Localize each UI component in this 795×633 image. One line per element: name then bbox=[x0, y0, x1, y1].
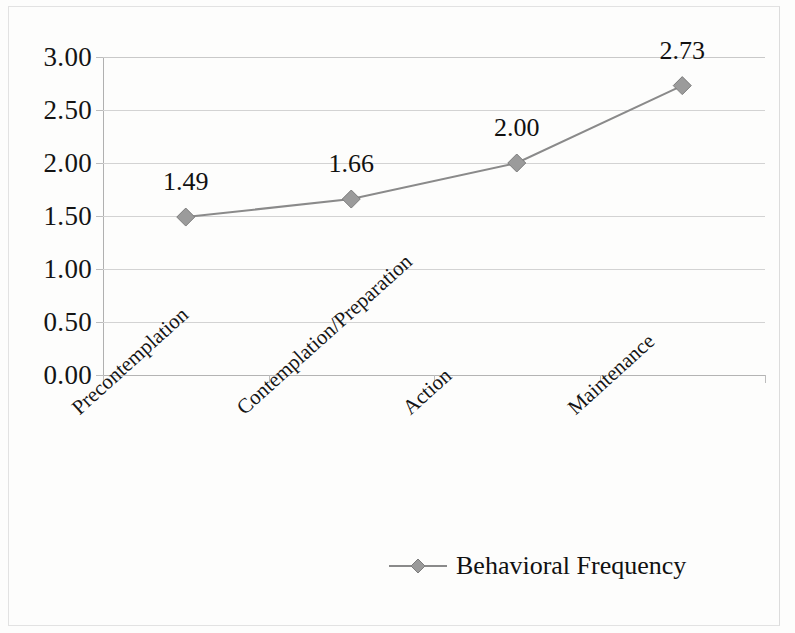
y-axis-tick-label: 2.00 bbox=[6, 150, 92, 177]
y-axis-tick-label: 1.00 bbox=[6, 256, 92, 283]
y-axis-tick-label: 1.50 bbox=[6, 203, 92, 230]
plot-area bbox=[103, 57, 765, 375]
chart-legend: Behavioral Frequency bbox=[389, 553, 686, 579]
series-line bbox=[186, 86, 683, 217]
data-point-label: 2.73 bbox=[660, 38, 706, 64]
y-axis-tick-label: 3.00 bbox=[6, 44, 92, 71]
y-axis-tick bbox=[96, 163, 103, 164]
y-axis-tick bbox=[96, 322, 103, 323]
data-point-marker bbox=[342, 190, 360, 208]
data-point-marker bbox=[177, 208, 195, 226]
y-axis-tick-label: 2.50 bbox=[6, 97, 92, 124]
y-axis-tick bbox=[96, 216, 103, 217]
y-axis-tick bbox=[96, 57, 103, 58]
data-point-marker bbox=[508, 154, 526, 172]
data-point-label: 2.00 bbox=[494, 115, 540, 141]
x-axis-tick bbox=[765, 375, 766, 383]
y-axis-tick bbox=[96, 269, 103, 270]
series-behavioral-frequency bbox=[103, 57, 765, 375]
y-axis-tick bbox=[96, 110, 103, 111]
data-point-label: 1.49 bbox=[163, 169, 209, 195]
x-axis-category-label: Precontemplation bbox=[68, 403, 82, 419]
y-axis-tick-label: 0.50 bbox=[6, 309, 92, 336]
data-point-label: 1.66 bbox=[329, 151, 375, 177]
x-axis-category-label: Contemplation/Preparation bbox=[233, 403, 247, 419]
diamond-marker-icon bbox=[389, 556, 447, 576]
y-axis-labels: 3.002.502.001.501.000.500.00 bbox=[0, 57, 92, 375]
data-point-marker bbox=[673, 77, 691, 95]
y-axis-tick-label: 0.00 bbox=[6, 362, 92, 389]
chart-figure: 3.002.502.001.501.000.500.00 1.491.662.0… bbox=[0, 0, 795, 633]
x-axis-category-label: Maintenance bbox=[564, 403, 578, 419]
x-axis-category-label: Action bbox=[399, 403, 413, 419]
legend-label: Behavioral Frequency bbox=[456, 553, 686, 579]
